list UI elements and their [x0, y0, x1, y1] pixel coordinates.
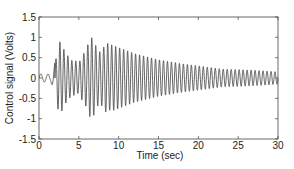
y-tick-label: 0 — [30, 73, 36, 84]
y-tick-label: -1 — [27, 113, 36, 124]
x-tick-label: 30 — [272, 140, 284, 151]
x-tick-label: 5 — [76, 140, 82, 151]
y-tick-label: -1.5 — [19, 134, 37, 145]
y-tick-label: 1.5 — [22, 12, 36, 23]
y-tick-label: 1 — [30, 32, 36, 43]
signal-line — [39, 38, 278, 117]
chart: 051015202530-1.5-1-0.500.511.5 Time (sec… — [0, 0, 294, 169]
x-axis-label: Time (sec) — [137, 150, 184, 161]
x-tick-label: 25 — [233, 140, 245, 151]
y-tick-label: -0.5 — [19, 93, 37, 104]
x-tick-label: 10 — [113, 140, 125, 151]
x-tick-label: 0 — [36, 140, 42, 151]
x-tick-label: 20 — [193, 140, 205, 151]
y-tick-label: 0.5 — [22, 52, 36, 63]
y-axis-label: Control signal (Volts) — [4, 32, 15, 124]
